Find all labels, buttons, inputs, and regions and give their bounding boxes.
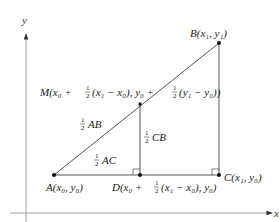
midpoint-diagram: y x B(x₁, y₁) A(x₀, y₀) C(x₁, y₀) D(x₀ +… [0,0,280,222]
svg-text:2: 2 [145,137,149,145]
point-D [138,173,142,177]
label-D-fraction: 1 2 [154,179,159,195]
label-M: M(x₀ + [39,86,72,99]
segment-AB [54,43,219,175]
x-axis-label: x [273,207,279,219]
point-A [52,173,56,177]
svg-text:AB: AB [87,118,102,130]
svg-text:2: 2 [95,160,99,168]
svg-text:2: 2 [155,187,159,195]
svg-text:1: 1 [155,179,159,187]
label-M-mid: (x₁ − x₀), y₀ + [92,86,154,99]
svg-text:1: 1 [173,84,177,92]
svg-text:1: 1 [95,152,99,160]
y-axis-label: y [21,14,27,26]
svg-text:1: 1 [86,84,90,92]
label-half-AC: 1 2 AC [94,152,117,168]
label-M-fraction-1: 1 2 [85,84,90,100]
svg-text:2: 2 [81,124,85,132]
label-C: C(x₁, y₀) [224,171,262,184]
svg-text:AC: AC [101,154,117,166]
label-A: A(x₀, y₀) [45,181,83,194]
label-D-rest: (x₁ − x₀), y₀) [161,181,217,194]
svg-text:1: 1 [145,129,149,137]
svg-text:2: 2 [86,92,90,100]
point-C [217,173,221,177]
label-half-AB: 1 2 AB [80,116,102,132]
label-D: D(x₀ + [111,181,143,194]
svg-text:2: 2 [173,92,177,100]
label-M-end: (y₁ − y₀)) [179,86,221,99]
point-M [139,103,142,106]
label-half-CB: 1 2 CB [144,129,166,145]
label-B: B(x₁, y₁) [190,27,227,40]
svg-text:1: 1 [81,116,85,124]
point-B [217,41,221,45]
svg-text:CB: CB [152,131,166,143]
label-M-fraction-2: 1 2 [172,84,177,100]
